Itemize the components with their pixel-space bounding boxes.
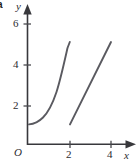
- y-tick-label-4: 4: [13, 59, 19, 70]
- y-axis-arrow-icon: [23, 4, 31, 15]
- x-tick-label-4: 4: [107, 149, 113, 160]
- x-axis-title: x: [124, 150, 129, 161]
- curve-1-path: [29, 42, 70, 124]
- y-tick-label-2: 2: [13, 100, 19, 111]
- origin-label: O: [14, 147, 22, 158]
- x-axis-arrow-icon: [126, 140, 137, 148]
- figure-container: 6 4 2 2 4 O y x a: [0, 0, 138, 165]
- y-axis-title: y: [16, 1, 21, 12]
- y-tick-label-6: 6: [13, 18, 19, 29]
- graph-canvas: [0, 0, 138, 165]
- x-tick-label-2: 2: [66, 149, 72, 160]
- panel-label: a: [0, 0, 3, 10]
- curve-2-path: [70, 42, 111, 124]
